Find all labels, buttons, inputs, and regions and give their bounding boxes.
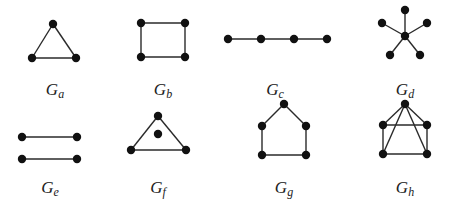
graph-label-subscript: c	[278, 87, 283, 101]
graph-vertex	[302, 122, 310, 130]
graph-vertex	[18, 155, 26, 163]
graph-label-Gf: Gf	[150, 178, 166, 200]
graph-vertex	[416, 51, 424, 59]
graph-label-Gd: Gd	[396, 80, 414, 102]
graph-edge	[383, 104, 405, 154]
graph-Gb	[137, 19, 189, 61]
graph-vertex	[181, 19, 189, 27]
graph-edge	[284, 104, 306, 126]
graph-vertex	[302, 151, 310, 159]
graph-edge	[53, 24, 76, 58]
graph-Gc	[224, 35, 331, 43]
graph-label-main: G	[150, 178, 162, 197]
graph-edge	[405, 104, 427, 125]
graph-vertex	[258, 151, 266, 159]
graph-vertex	[72, 54, 80, 62]
graph-label-main: G	[46, 80, 58, 99]
graph-label-Gg: Gg	[275, 178, 293, 200]
graph-Ga	[28, 20, 80, 62]
graph-label-Ga: Ga	[46, 80, 64, 102]
graph-vertex	[137, 19, 145, 27]
graph-label-subscript: f	[162, 185, 165, 199]
graph-label-main: G	[41, 178, 53, 197]
graph-Gg	[258, 100, 310, 159]
graph-vertex	[258, 122, 266, 130]
graph-vertex	[49, 20, 57, 28]
graph-Gh	[379, 100, 431, 158]
graph-label-Gb: Gb	[154, 80, 172, 102]
graph-label-main: G	[396, 178, 408, 197]
graph-vertex	[181, 53, 189, 61]
graph-vertex	[423, 150, 431, 158]
graph-Gf	[127, 112, 190, 154]
graph-edge	[405, 104, 427, 154]
graph-Ge	[18, 133, 81, 163]
graph-vertex	[290, 35, 298, 43]
graph-edge	[383, 104, 405, 125]
graph-vertex	[401, 32, 409, 40]
graph-label-subscript: e	[53, 185, 58, 199]
graph-vertex	[73, 155, 81, 163]
graph-label-Gc: Gc	[266, 80, 284, 102]
graph-vertex	[257, 35, 265, 43]
graph-vertex	[182, 146, 190, 154]
graph-label-subscript: g	[287, 185, 293, 199]
graph-label-main: G	[275, 178, 287, 197]
graph-vertex	[224, 35, 232, 43]
graph-vertex	[154, 112, 162, 120]
graph-vertex	[28, 54, 36, 62]
graph-label-main: G	[154, 80, 166, 99]
graph-vertex	[18, 133, 26, 141]
graph-Gd	[378, 6, 431, 59]
graph-label-subscript: d	[408, 87, 414, 101]
graph-vertex	[386, 51, 394, 59]
graph-label-Ge: Ge	[41, 178, 59, 200]
graph-vertex	[154, 130, 162, 138]
graph-vertex	[323, 35, 331, 43]
graph-edge	[32, 24, 53, 58]
graph-label-subscript: h	[408, 185, 414, 199]
graph-vertex	[423, 121, 431, 129]
graph-vertex	[379, 150, 387, 158]
graph-vertex	[401, 6, 409, 14]
graph-label-subscript: b	[166, 87, 172, 101]
graph-vertex	[127, 146, 135, 154]
graph-label-subscript: a	[58, 87, 64, 101]
graph-vertex	[73, 133, 81, 141]
graph-label-Gh: Gh	[396, 178, 414, 200]
graph-edge	[262, 104, 284, 126]
graph-edge	[158, 116, 186, 150]
graphs-canvas	[0, 0, 450, 209]
graph-vertex	[423, 19, 431, 27]
graph-label-main: G	[396, 80, 408, 99]
graph-vertex	[137, 53, 145, 61]
graph-label-main: G	[266, 80, 278, 99]
graph-vertex	[379, 121, 387, 129]
graph-vertex	[378, 19, 386, 27]
